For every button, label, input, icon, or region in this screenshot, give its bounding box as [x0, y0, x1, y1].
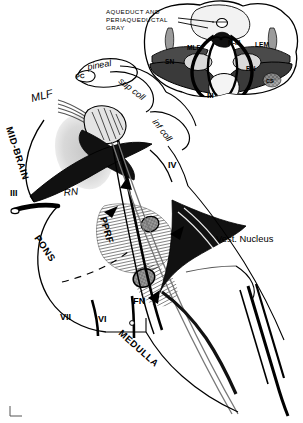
main-brainstem: pineal PC sup coll inf coll MLF MID-BRAI… — [4, 58, 288, 416]
nerve-3-root — [14, 205, 58, 210]
label-rn: RN — [63, 185, 79, 198]
inset-label-rn: RN — [246, 65, 256, 72]
label-vest-nucleus: Vest. Nucleus — [216, 233, 274, 244]
inset-label-cs: CS — [266, 78, 274, 84]
brainstem-right-border — [188, 186, 284, 340]
label-pons: PONS — [32, 233, 58, 264]
inset-label-n3: N-III — [228, 39, 241, 46]
label-nerve-3: III — [10, 188, 18, 198]
nerve-6-root-marker — [130, 321, 135, 326]
label-nerve-3b: III — [207, 91, 214, 100]
label-nerve-7: VII — [60, 312, 71, 322]
nerve-3-root-tip — [11, 208, 19, 213]
label-fn: FN — [133, 295, 146, 306]
cerebral-aqueduct — [217, 19, 228, 28]
inset-label-lem: LEM — [255, 41, 269, 48]
inset-label-sn: SN — [165, 58, 174, 65]
medullary-dark-tract — [162, 292, 236, 394]
brainstem-diagram: AQUEDUCT AND PERIAQUEDUCTAL GRAY MLF N-I… — [0, 0, 303, 423]
label-mlf: MLF — [30, 87, 55, 104]
aqueduct-callout-line3: GRAY — [106, 24, 125, 31]
corner-tick — [10, 406, 22, 416]
descending-bundle-right — [240, 284, 288, 416]
label-nerve-4: IV — [168, 160, 177, 170]
figure-canvas: AQUEDUCT AND PERIAQUEDUCTAL GRAY MLF N-I… — [0, 0, 303, 423]
label-pc: PC — [75, 72, 85, 80]
inferior-colliculus-edge — [166, 92, 196, 126]
aqueduct-callout-line2: PERIAQUEDUCTAL — [106, 16, 168, 23]
inset-label-mlf: MLF — [187, 44, 201, 51]
long-tract-fibers — [112, 142, 238, 414]
aqueduct-callout-line1: AQUEDUCT AND — [106, 8, 160, 15]
label-nerve-6: VI — [98, 314, 107, 324]
label-inf-coll: inf coll — [150, 117, 174, 144]
